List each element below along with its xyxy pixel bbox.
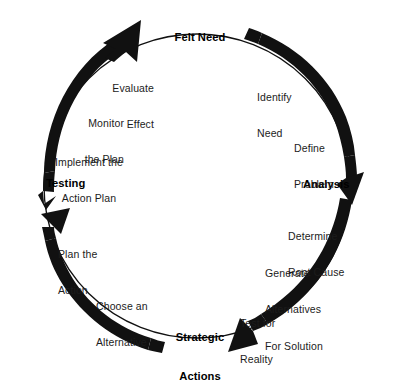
step-implement-action-plan: Implement the Action Plan [48,131,130,229]
step-monitor-the-plan-line1: Monitor [56,117,124,129]
step-plan-the-action-line1: Plan the [58,248,118,260]
step-define-problem-line1: Define [294,142,358,154]
step-identify-need-line1: Identify [257,91,319,103]
step-determine-root-cause-line1: Determine [288,230,366,242]
step-test-for-reality-line1: Test for [240,317,302,329]
step-define-problem-line2: Problem [294,178,358,190]
step-implement-action-plan-line2: Action Plan [48,192,130,204]
step-implement-action-plan-line1: Implement the [48,156,130,168]
step-test-for-reality: Test for Reality [240,292,302,384]
step-define-problem: Define Problem [294,117,358,215]
step-choose-an-alternative-line2: Alternative [96,336,170,348]
step-plan-the-action-line2: Action [58,284,118,296]
step-generate-alternatives-line1: Generate [265,267,345,279]
heading-felt-need: Felt Need [160,31,240,44]
step-plan-the-action: Plan the Action [58,223,118,321]
step-test-for-reality-line2: Reality [240,353,302,365]
